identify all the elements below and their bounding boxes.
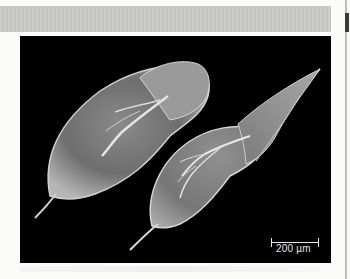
scale-bar-label: 200 µm: [276, 243, 311, 254]
caption-area: [20, 266, 320, 272]
daphnia-specimens-image: [20, 36, 331, 263]
page-edge-rule: [345, 0, 347, 279]
scale-bar-tick-right: [318, 238, 319, 247]
scale-bar-tick-left: [271, 238, 272, 247]
page-edge-marker: [345, 13, 349, 32]
scale-bar: 200 µm: [271, 237, 319, 257]
sem-micrograph: 200 µm: [20, 36, 331, 263]
header-band: [0, 6, 331, 32]
